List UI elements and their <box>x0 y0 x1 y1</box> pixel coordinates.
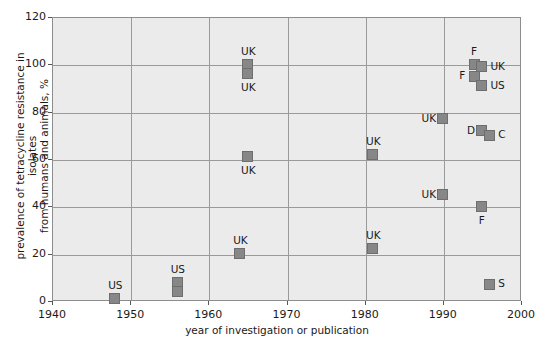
x-axis-title: year of investigation or publication <box>0 324 554 336</box>
data-point-label: D <box>467 124 475 136</box>
x-axis-tick <box>521 301 522 305</box>
y-axis-title-line1: prevalence of tetracycline resistance in… <box>14 36 38 276</box>
x-tick-label: 1960 <box>183 308 233 321</box>
data-point-marker <box>437 189 448 200</box>
x-axis-tick <box>365 301 366 305</box>
x-axis-tick <box>287 301 288 305</box>
gridline-horizontal <box>53 65 520 66</box>
gridline-vertical <box>131 18 132 300</box>
x-tick-label: 1970 <box>262 308 312 321</box>
data-point-label: S <box>498 277 505 289</box>
gridline-vertical <box>444 18 445 300</box>
data-point-label: UK <box>241 81 256 93</box>
data-point-label: US <box>171 263 185 275</box>
data-point-marker <box>242 68 253 79</box>
gridline-vertical <box>209 18 210 300</box>
data-point-label: UK <box>422 188 437 200</box>
x-tick-label: 1940 <box>27 308 77 321</box>
y-axis-tick <box>48 301 52 302</box>
data-point-label: US <box>108 279 122 291</box>
data-point-marker <box>172 286 183 297</box>
x-axis-tick <box>208 301 209 305</box>
data-point-marker <box>367 243 378 254</box>
data-point-label: UK <box>241 164 256 176</box>
data-point-label: F <box>471 45 477 57</box>
data-point-marker <box>476 80 487 91</box>
gridline-horizontal <box>53 207 520 208</box>
y-tick-label: 120 <box>10 10 46 23</box>
data-point-label: UK <box>422 112 437 124</box>
data-point-label: F <box>459 69 465 81</box>
data-point-marker <box>234 248 245 259</box>
data-point-marker <box>484 279 495 290</box>
x-tick-label: 1990 <box>418 308 468 321</box>
x-axis-tick <box>443 301 444 305</box>
y-tick-label: 0 <box>10 294 46 307</box>
data-point-label: UK <box>366 229 381 241</box>
data-point-marker <box>242 151 253 162</box>
gridline-horizontal <box>53 160 520 161</box>
data-point-marker <box>367 149 378 160</box>
gridline-horizontal <box>53 113 520 114</box>
gridline-vertical <box>288 18 289 300</box>
data-point-marker <box>484 130 495 141</box>
plot-area <box>52 17 521 301</box>
data-point-label: UK <box>366 135 381 147</box>
y-axis-title: prevalence of tetracycline resistance in… <box>14 36 50 276</box>
data-point-label: US <box>490 79 504 91</box>
x-tick-label: 1980 <box>340 308 390 321</box>
data-point-label: UK <box>233 234 248 246</box>
x-tick-label: 1950 <box>105 308 155 321</box>
data-point-label: F <box>479 214 485 226</box>
chart-container: 020406080100120 194019501960197019801990… <box>0 0 554 345</box>
x-tick-label: 2000 <box>496 308 546 321</box>
data-point-label: UK <box>241 45 256 57</box>
x-axis-tick <box>130 301 131 305</box>
data-point-label: UK <box>490 60 505 72</box>
gridline-horizontal <box>53 255 520 256</box>
y-axis-title-line2: from humans and animals, % <box>38 36 50 276</box>
data-point-label: C <box>498 128 505 140</box>
data-point-marker <box>109 293 120 304</box>
data-point-marker <box>476 201 487 212</box>
y-axis-tick <box>48 17 52 18</box>
x-axis-tick <box>52 301 53 305</box>
data-point-marker <box>437 113 448 124</box>
